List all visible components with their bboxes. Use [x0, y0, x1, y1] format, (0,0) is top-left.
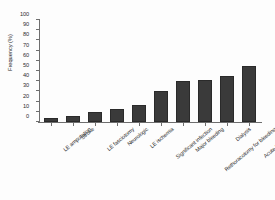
bar-slot [88, 20, 101, 122]
bar-slot [66, 20, 79, 122]
y-axis-tick-label: 60 [23, 52, 29, 58]
bar [242, 66, 255, 122]
bar-slot [198, 20, 211, 122]
y-axis-tick: 0 [36, 121, 41, 122]
x-axis-tick-label: Dialysis [234, 126, 252, 142]
bar [110, 109, 123, 122]
y-axis-tick: 30 [36, 90, 41, 91]
bar-slot [220, 20, 233, 122]
x-axis-tick [51, 122, 52, 126]
y-axis-tick-label: 0 [26, 113, 29, 119]
x-axis-tick [161, 122, 162, 126]
y-axis-tick-label: 40 [23, 72, 29, 78]
y-axis-tick: 40 [36, 80, 41, 81]
bar-slot [154, 20, 167, 122]
y-axis-tick-label: 80 [23, 31, 29, 37]
x-axis-tick-label: Stroke [79, 126, 95, 140]
y-axis-tick: 90 [36, 29, 41, 30]
y-axis-tick: 70 [36, 50, 41, 51]
x-axis-tick [227, 122, 228, 126]
bar-slot [242, 20, 255, 122]
y-axis-tick-label: 50 [23, 62, 29, 68]
y-axis-tick-label: 10 [23, 103, 29, 109]
bar-slot [176, 20, 189, 122]
y-axis-tick-label: 30 [23, 82, 29, 88]
y-axis-title: Frequency (%) [7, 34, 13, 71]
bar [176, 81, 189, 122]
x-axis-tick [95, 122, 96, 126]
y-axis-tick-label: 90 [23, 21, 29, 27]
y-axis-tick: 10 [36, 111, 41, 112]
bar-slot [44, 20, 57, 122]
y-axis-tick: 80 [36, 39, 41, 40]
y-axis-tick: 100 [36, 19, 41, 20]
x-axis-tick [117, 122, 118, 126]
bar [154, 91, 167, 122]
bar-slot [110, 20, 123, 122]
y-axis-tick: 50 [36, 70, 41, 71]
bar [132, 105, 145, 122]
y-axis-tick-label: 20 [23, 93, 29, 99]
bar [88, 112, 101, 122]
y-axis-tick-label: 70 [23, 42, 29, 48]
x-axis-tick [139, 122, 140, 126]
y-axis-tick: 60 [36, 60, 41, 61]
x-axis-tick [183, 122, 184, 126]
plot-area: 0102030405060708090100 [40, 20, 260, 122]
chart-figure: Frequency (%) 0102030405060708090100 LE … [0, 0, 275, 200]
x-axis-tick [205, 122, 206, 126]
x-axis-tick [73, 122, 74, 126]
bar [220, 76, 233, 122]
bar [198, 80, 211, 122]
y-axis-tick: 20 [36, 101, 41, 102]
x-axis-tick-label: LE ischemia [148, 126, 174, 149]
y-axis-tick-label: 100 [20, 11, 29, 17]
x-axis-tick [249, 122, 250, 126]
bar-slot [132, 20, 145, 122]
